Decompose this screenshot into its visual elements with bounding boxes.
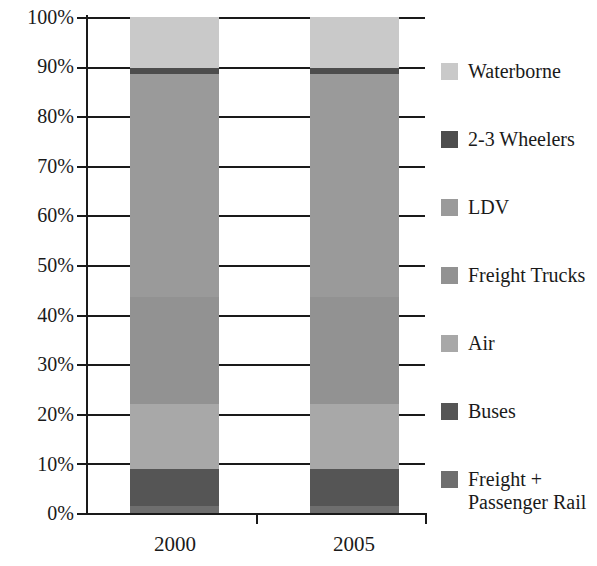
segment-waterborne-2005 bbox=[310, 17, 399, 68]
y-tick-label-0: 0% bbox=[0, 503, 74, 523]
segment-air-2005 bbox=[310, 404, 399, 469]
y-tick-label-30: 30% bbox=[0, 354, 74, 374]
segment-freight-trucks-2000 bbox=[130, 297, 219, 404]
legend-label-waterborne: Waterborne bbox=[468, 60, 561, 83]
legend-label-freight-passenger-rail: Freight + Passenger Rail bbox=[468, 468, 586, 514]
legend-label-ldv: LDV bbox=[468, 196, 509, 219]
x-axis-label-2005: 2005 bbox=[294, 532, 414, 556]
y-tick-80 bbox=[77, 116, 87, 118]
y-tick-60 bbox=[77, 215, 87, 217]
segment-freight-trucks-2005 bbox=[310, 297, 399, 404]
segment-ldv-2005 bbox=[310, 74, 399, 297]
x-tick-right bbox=[425, 513, 427, 524]
y-tick-30 bbox=[77, 364, 87, 366]
legend-item-freight-trucks[interactable]: Freight Trucks bbox=[441, 264, 585, 287]
y-tick-40 bbox=[77, 315, 87, 317]
legend-swatch-freight-trucks bbox=[441, 267, 458, 284]
segment-buses-2005 bbox=[310, 469, 399, 505]
y-tick-label-50: 50% bbox=[0, 255, 74, 275]
legend-swatch-ldv bbox=[441, 199, 458, 216]
segment-buses-2000 bbox=[130, 469, 219, 505]
segment-waterborne-2000 bbox=[130, 17, 219, 68]
bar-column-2000 bbox=[130, 17, 219, 513]
bar-column-2005 bbox=[310, 17, 399, 513]
y-tick-90 bbox=[77, 67, 87, 69]
legend-swatch-air bbox=[441, 335, 458, 352]
legend-swatch-freight-passenger-rail bbox=[441, 471, 458, 488]
legend-item-2-3-wheelers[interactable]: 2-3 Wheelers bbox=[441, 128, 575, 151]
y-tick-70 bbox=[77, 166, 87, 168]
y-tick-label-60: 60% bbox=[0, 205, 74, 225]
legend-item-waterborne[interactable]: Waterborne bbox=[441, 60, 561, 83]
y-tick-10 bbox=[77, 463, 87, 465]
stacked-bar-chart: 100% 90% 80% 70% 60% 50% 40% 30% 20% 10%… bbox=[0, 0, 597, 566]
legend-swatch-waterborne bbox=[441, 63, 458, 80]
legend-swatch-2-3-wheelers bbox=[441, 131, 458, 148]
y-tick-label-10: 10% bbox=[0, 454, 74, 474]
segment-air-2000 bbox=[130, 404, 219, 469]
legend-label-air: Air bbox=[468, 332, 495, 355]
legend-label-freight-trucks: Freight Trucks bbox=[468, 264, 585, 287]
segment-ldv-2000 bbox=[130, 74, 219, 297]
legend-item-buses[interactable]: Buses bbox=[441, 400, 516, 423]
y-tick-label-100: 100% bbox=[0, 7, 74, 27]
y-tick-label-70: 70% bbox=[0, 156, 74, 176]
y-tick-label-40: 40% bbox=[0, 305, 74, 325]
y-tick-label-80: 80% bbox=[0, 106, 74, 126]
y-tick-100 bbox=[77, 17, 87, 19]
segment-freight-passenger-rail-2005 bbox=[310, 506, 399, 513]
y-tick-label-20: 20% bbox=[0, 404, 74, 424]
y-tick-20 bbox=[77, 414, 87, 416]
x-tick-middle bbox=[256, 513, 258, 524]
legend-item-freight-passenger-rail[interactable]: Freight + Passenger Rail bbox=[441, 468, 586, 514]
y-tick-50 bbox=[77, 265, 87, 267]
legend-label-2-3-wheelers: 2-3 Wheelers bbox=[468, 128, 575, 151]
legend-label-buses: Buses bbox=[468, 400, 516, 423]
legend-item-ldv[interactable]: LDV bbox=[441, 196, 509, 219]
y-tick-label-90: 90% bbox=[0, 56, 74, 76]
segment-freight-passenger-rail-2000 bbox=[130, 506, 219, 513]
legend-swatch-buses bbox=[441, 403, 458, 420]
legend-item-air[interactable]: Air bbox=[441, 332, 495, 355]
x-axis-label-2000: 2000 bbox=[115, 532, 235, 556]
plot-area: 2000 2005 bbox=[86, 17, 425, 513]
